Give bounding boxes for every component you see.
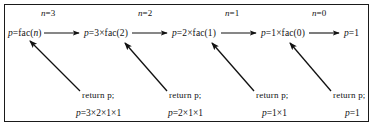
stack-depth-label-1: n=2 <box>138 9 152 18</box>
call-expression-0: p=fac(n) <box>8 29 42 39</box>
stack-depth-label-0: n=3 <box>41 9 55 18</box>
return-statement-3: return p; <box>333 91 366 100</box>
call-expression-4: p=1 <box>344 29 359 39</box>
result-value-3: p=1 <box>345 109 360 119</box>
call-expression-2: p=2×fac(1) <box>172 29 216 39</box>
stack-depth-label-2: n=1 <box>225 9 239 18</box>
result-value-1: p=2×1×1 <box>168 109 203 119</box>
return-statement-2: return p; <box>256 91 289 100</box>
stack-depth-label-3: n=0 <box>312 9 326 18</box>
diagram-canvas: n=3 n=2 n=1 n=0 p=fac(n) p=3×fac(2) p=2×… <box>0 0 375 129</box>
result-value-0: p=3×2×1×1 <box>76 109 121 119</box>
return-statement-1: return p; <box>169 91 202 100</box>
call-expression-1: p=3×fac(2) <box>84 29 128 39</box>
return-statement-0: return p; <box>82 91 115 100</box>
diagram-frame <box>4 4 369 122</box>
call-expression-3: p=1×fac(0) <box>261 29 305 39</box>
result-value-2: p=1×1 <box>262 109 287 119</box>
